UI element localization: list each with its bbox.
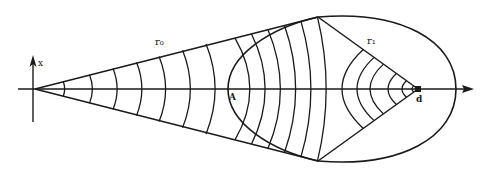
label-point-A: A xyxy=(228,92,237,102)
label-r0: r₀ xyxy=(155,36,164,47)
ray-r1-lower xyxy=(318,89,418,161)
ray-r1-upper xyxy=(318,17,418,89)
point-d-marker xyxy=(415,86,421,92)
diagram-canvas: x r₀ r₁ A d xyxy=(0,0,486,176)
label-r1: r₁ xyxy=(367,35,376,46)
diagram-svg: x r₀ r₁ A d xyxy=(0,0,486,176)
label-point-d: d xyxy=(416,94,423,104)
label-axis-x: x xyxy=(38,58,43,68)
